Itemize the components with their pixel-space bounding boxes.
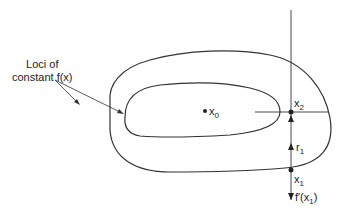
point-x1-dot [289, 168, 294, 173]
r1-sub: 1 [300, 147, 304, 156]
x2-sub: 2 [300, 103, 304, 112]
x1-base: x [294, 173, 300, 185]
label-x1: x1 [294, 173, 304, 187]
point-x0-dot [203, 109, 207, 113]
gradient-post: ) [314, 191, 318, 203]
label-x0: x0 [209, 105, 219, 119]
gradient-sub: 1 [309, 197, 313, 206]
x2-arrowhead-icon [288, 115, 294, 122]
x0-sub: 0 [215, 111, 219, 120]
x1-sub: 1 [300, 179, 304, 188]
point-x2-dot [289, 110, 294, 115]
label-x2: x2 [294, 97, 304, 111]
x2-base: x [294, 97, 300, 109]
gradient-pre: f′(x [295, 191, 309, 203]
annotation-line-2: constant f(x) [12, 71, 73, 84]
label-gradient: f′(x1) [295, 191, 317, 205]
loci-annotation: Loci of constant f(x) [12, 58, 73, 84]
inner-contour-curve [125, 83, 280, 137]
annotation-arrow-inner [55, 80, 122, 113]
arrowhead-icon [117, 109, 124, 114]
x0-base: x [209, 105, 215, 117]
gradient-arrowhead-icon [288, 193, 294, 200]
annotation-line-1: Loci of [12, 58, 73, 71]
label-r1: r1 [296, 141, 304, 155]
r1-arrowhead-icon [288, 143, 294, 150]
